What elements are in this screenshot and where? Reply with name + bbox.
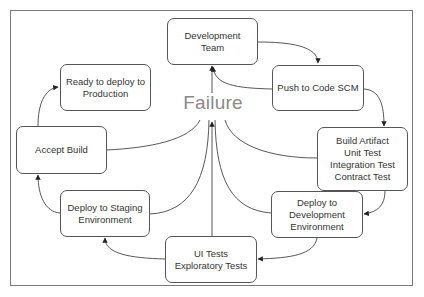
node-development-team: Development Team	[167, 18, 258, 65]
edge-devteam-to-push	[258, 42, 318, 63]
failure-edge-build	[225, 120, 317, 158]
node-label: Contract Test	[335, 171, 391, 183]
failure-edge-staging	[150, 120, 209, 214]
failure-edge-deploydev	[215, 120, 271, 213]
node-label: Environment	[290, 221, 343, 233]
node-label: Environment	[78, 214, 131, 226]
node-label: Deploy to Staging	[68, 202, 143, 214]
edge-deploydev-to-uitests	[258, 238, 317, 259]
edge-staging-to-accept	[38, 175, 60, 213]
node-label: Deploy to	[297, 197, 337, 209]
node-deploy-to-development: Deploy to Development Environment	[271, 191, 363, 238]
edge-accept-to-ready	[38, 87, 58, 126]
node-label: Push to Code SCM	[277, 82, 358, 94]
node-label: Production	[83, 88, 128, 100]
node-label: Ready to deploy to	[66, 76, 145, 88]
node-label: Build Artifact	[336, 135, 389, 147]
node-deploy-to-staging: Deploy to Staging Environment	[60, 190, 150, 237]
node-accept-build: Accept Build	[16, 126, 107, 174]
node-ui-tests: UI Tests Exploratory Tests	[165, 236, 257, 283]
node-label: Accept Build	[35, 144, 88, 156]
node-label: Development	[289, 209, 345, 221]
node-label: Unit Test	[344, 147, 381, 159]
failure-edge-push	[213, 67, 272, 89]
node-label: Development Team	[172, 30, 253, 54]
edge-uitests-to-staging	[105, 238, 165, 259]
node-push-to-code-scm: Push to Code SCM	[272, 65, 364, 111]
node-label: Integration Test	[330, 159, 395, 171]
edge-build-to-deploydev	[364, 191, 385, 214]
edge-push-to-build	[364, 89, 384, 126]
failure-label: Failure	[178, 92, 248, 114]
node-ready-to-deploy-production: Ready to deploy to Production	[60, 64, 151, 111]
node-label: Exploratory Tests	[175, 260, 248, 272]
node-label: UI Tests	[194, 248, 228, 260]
node-build-and-test: Build Artifact Unit Test Integration Tes…	[317, 127, 408, 191]
pipeline-diagram: Failure Development Team Push to Code SC…	[0, 0, 424, 297]
failure-edge-accept	[106, 120, 200, 150]
